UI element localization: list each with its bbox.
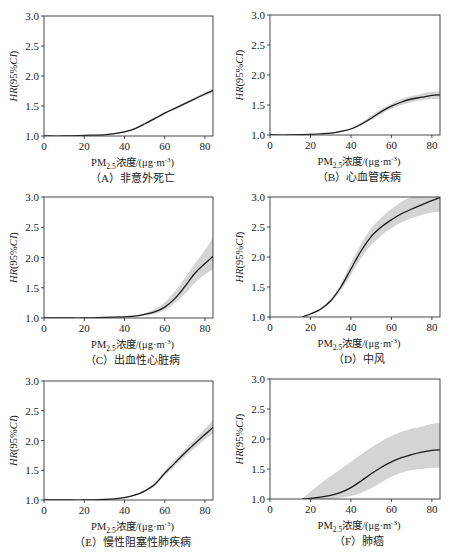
- x-tick-label: 40: [345, 321, 357, 333]
- x-tick-label: 0: [267, 503, 273, 515]
- x-tick-label: 0: [267, 321, 273, 333]
- panel-caption: （E）慢性阻塞性肺疾病: [74, 535, 191, 548]
- panel-d: 1.01.52.02.53.0020406080HR(95%CI)PM2.5浓度…: [234, 191, 440, 365]
- hr-line: [44, 90, 213, 136]
- confidence-band: [44, 238, 213, 319]
- x-axis-title: PM2.5浓度/(μg·m-3): [91, 520, 174, 535]
- panel-caption: （C）出血性心脏病: [85, 353, 180, 366]
- y-tick-label: 3.0: [251, 9, 265, 21]
- x-tick-label: 20: [79, 322, 91, 334]
- confidence-band: [44, 420, 213, 500]
- y-tick-label: 3.0: [25, 375, 39, 387]
- y-tick-label: 1.5: [25, 282, 39, 294]
- x-axis-title: PM2.5浓度/(μg·m-3): [91, 156, 174, 171]
- panel-a: 1.01.52.02.53.0020406080HR(95%CI)PM2.5浓度…: [8, 10, 213, 184]
- panel-f: 1.01.52.02.53.0020406080HR(95%CI)PM2.5浓度…: [234, 373, 440, 547]
- y-axis-title: HR(95%CI): [234, 231, 246, 283]
- plot-frame: [270, 15, 440, 135]
- y-tick-label: 1.5: [25, 464, 39, 476]
- x-tick-label: 20: [79, 504, 91, 516]
- panel-caption: （D）中风: [333, 353, 385, 365]
- confidence-band: [302, 197, 440, 317]
- plot-frame: [44, 16, 213, 136]
- y-tick-label: 2.5: [25, 405, 39, 417]
- panel-caption: （F）肺癌: [334, 534, 384, 547]
- panel-e: 1.01.52.02.53.0020406080HR(95%CI)PM2.5浓度…: [8, 375, 213, 548]
- x-axis-title: PM2.5浓度/(μg·m-3): [318, 155, 401, 170]
- x-tick-label: 40: [119, 140, 131, 152]
- x-tick-label: 80: [199, 322, 211, 334]
- plot-frame: [44, 381, 213, 500]
- x-tick-label: 60: [386, 139, 398, 151]
- y-tick-label: 3.0: [25, 191, 39, 203]
- y-tick-label: 1.5: [251, 463, 265, 475]
- y-tick-label: 1.0: [251, 493, 265, 505]
- y-tick-label: 1.5: [251, 281, 265, 293]
- x-tick-label: 60: [386, 503, 398, 515]
- y-axis-title: HR(95%CI): [234, 413, 246, 465]
- figure: 1.01.52.02.53.0020406080HR(95%CI)PM2.5浓度…: [0, 0, 452, 556]
- y-tick-label: 2.5: [251, 221, 265, 233]
- y-tick-label: 1.0: [25, 312, 39, 324]
- x-axis-title: PM2.5浓度/(μg·m-3): [318, 337, 401, 352]
- x-tick-label: 40: [345, 139, 357, 151]
- x-tick-label: 0: [41, 322, 47, 334]
- x-tick-label: 80: [426, 139, 438, 151]
- y-tick-label: 3.0: [251, 373, 265, 385]
- y-axis-title: HR(95%CI): [8, 232, 20, 284]
- y-tick-label: 1.0: [251, 311, 265, 323]
- x-tick-label: 0: [267, 139, 273, 151]
- x-tick-label: 20: [79, 140, 91, 152]
- y-tick-label: 2.0: [25, 435, 39, 447]
- x-tick-label: 0: [41, 140, 47, 152]
- x-tick-label: 0: [41, 504, 47, 516]
- x-tick-label: 40: [345, 503, 357, 515]
- x-tick-label: 20: [305, 139, 317, 151]
- x-tick-label: 20: [305, 503, 317, 515]
- y-tick-label: 1.5: [25, 100, 39, 112]
- y-tick-label: 2.5: [25, 40, 39, 52]
- confidence-band: [44, 89, 213, 136]
- plot-frame: [44, 197, 213, 318]
- x-tick-label: 60: [159, 140, 171, 152]
- y-tick-label: 2.0: [25, 252, 39, 264]
- panel-caption: （A）非意外死亡: [90, 171, 175, 184]
- y-tick-label: 2.0: [25, 70, 39, 82]
- x-tick-label: 80: [199, 140, 211, 152]
- y-axis-title: HR(95%CI): [234, 49, 246, 101]
- x-axis-title: PM2.5浓度/(μg·m-3): [318, 519, 401, 534]
- y-tick-label: 1.5: [251, 99, 265, 111]
- x-tick-label: 40: [119, 322, 131, 334]
- y-tick-label: 2.5: [25, 221, 39, 233]
- y-tick-label: 1.0: [25, 130, 39, 142]
- y-tick-label: 2.5: [251, 403, 265, 415]
- x-tick-label: 20: [305, 321, 317, 333]
- x-tick-label: 60: [159, 504, 171, 516]
- y-tick-label: 2.0: [251, 433, 265, 445]
- hr-line: [44, 427, 213, 500]
- x-tick-label: 80: [426, 321, 438, 333]
- x-tick-label: 60: [159, 322, 171, 334]
- y-tick-label: 3.0: [251, 191, 265, 203]
- x-tick-label: 80: [199, 504, 211, 516]
- x-tick-label: 80: [426, 503, 438, 515]
- x-tick-label: 60: [386, 321, 398, 333]
- y-tick-label: 1.0: [251, 129, 265, 141]
- y-tick-label: 2.0: [251, 69, 265, 81]
- y-tick-label: 2.5: [251, 39, 265, 51]
- x-tick-label: 40: [119, 504, 131, 516]
- confidence-band: [302, 423, 440, 499]
- panel-c: 1.01.52.02.53.0020406080HR(95%CI)PM2.5浓度…: [8, 191, 213, 366]
- panel-b: 1.01.52.02.53.0020406080HR(95%CI)PM2.5浓度…: [234, 9, 440, 183]
- y-axis-title: HR(95%CI): [8, 415, 20, 467]
- y-tick-label: 1.0: [25, 494, 39, 506]
- x-axis-title: PM2.5浓度/(μg·m-3): [91, 338, 174, 353]
- y-tick-label: 2.0: [251, 251, 265, 263]
- panel-caption: （B）心血管疾病: [317, 170, 401, 183]
- y-axis-title: HR(95%CI): [8, 50, 20, 102]
- y-tick-label: 3.0: [25, 10, 39, 22]
